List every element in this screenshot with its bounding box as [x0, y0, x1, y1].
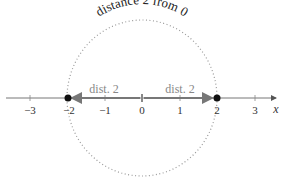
tick-label-neg1: −1 [99, 104, 111, 116]
tick-label-1: 1 [177, 104, 183, 116]
dist-label-right: dist. 2 [165, 82, 194, 96]
diagram-title: distance 2 from 0 [93, 0, 191, 19]
tick-label-2: 2 [214, 104, 220, 116]
tick-label-0: 0 [139, 104, 145, 116]
diagram-title-path: distance 2 from 0 [93, 0, 191, 19]
tick-label-neg3: −3 [24, 104, 36, 116]
tick-label-neg2: −2 [63, 104, 75, 116]
tick-label-3: 3 [252, 104, 258, 116]
number-line-diagram: −3 −2 −1 0 1 2 3 x dist. 2 dist. 2 dista… [0, 0, 286, 182]
point-neg-2 [65, 95, 72, 102]
axis-variable-label: x [272, 102, 279, 116]
dist-label-left: dist. 2 [89, 82, 118, 96]
point-2 [214, 95, 221, 102]
